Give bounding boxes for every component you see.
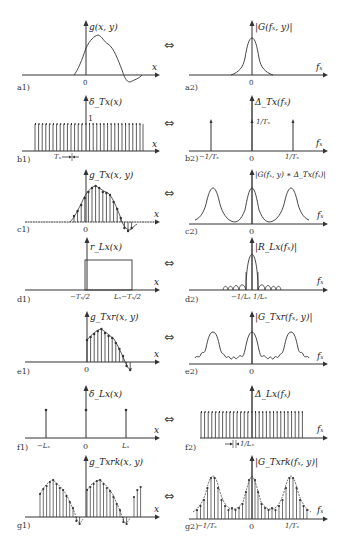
axis-label: fₓ [317,351,324,361]
axis-label: fₓ [317,210,324,220]
panel-tag: g1) [17,521,30,530]
axis-label: x [152,139,157,149]
function-label: δ_Lx(x) [89,389,122,399]
axis-label: x [154,425,159,435]
figure-caption-cropped [0,546,343,554]
plot-g1 [0,452,170,532]
panel-e1: g_Txr(x, y) x 0 e1) [0,304,170,376]
tick-label: 0 [249,522,254,531]
tick-label: 1/Lₓ [253,293,267,301]
panel-tag: c1) [17,225,30,234]
function-label: g_Txrk(x, y) [89,457,143,467]
tick-label: Tₓ [54,153,61,161]
tick-label: −1/Tₓ [197,522,217,530]
panel-a2: |G(fₓ, y)| fₓ 0 a2) [173,0,343,92]
tick-label: 1/Lₓ [240,440,254,448]
panel-c2: |G(fₓ, y) ∗ Δ_Tx(fₓ)| fₓ 0 c2) [173,162,343,234]
panel-tag: d1) [17,295,30,304]
panel-tag: e2) [185,367,198,376]
function-label: Δ_Lx(fₓ) [255,389,291,399]
tick-label: Lₓ−Tₓ/2 [114,293,141,301]
plot-f2 [173,376,343,452]
panel-g1: g_Txrk(x, y) x g1) [0,452,170,532]
axis-label: fₓ [317,276,324,286]
function-label: |R_Lx(fₓ)| [255,242,297,252]
tick-label: 0 [249,79,253,87]
plot-f1 [0,376,170,452]
plot-a2 [173,0,343,92]
axis-label: fₓ [317,424,324,434]
tick-label: 1/Tₓ [285,153,299,161]
panel-g2: |G_Txrk(fₓ, y)| fₓ g2) −1/Tₓ 0 1/Tₓ [173,452,343,532]
panel-c1: g_Tx(x, y) x 0 c1) [0,162,170,234]
axis-label: fₓ [316,138,323,148]
function-label: |G(fₓ, y)| [255,22,293,32]
axis-label: fₓ [317,505,324,515]
panel-d1: r_Lx(x) x −Tₓ/2 Lₓ−Tₓ/2 d1) [0,234,170,304]
tick-label: 0 [83,442,88,451]
function-label: |G_Txrk(fₓ, y)| [255,457,318,467]
function-label: g(x, y) [89,22,118,32]
tick-label: Lₓ [122,442,129,450]
tick-label: −Tₓ/2 [70,293,90,301]
tick-label: 0 [83,79,87,87]
function-label: |G(fₓ, y) ∗ Δ_Tx(fₓ)| [255,170,326,179]
panel-tag: a1) [17,83,30,92]
axis-label: x [154,349,159,359]
tick-label: −Lₓ [37,442,50,450]
tick-label: −1/Lₓ [231,293,251,301]
plot-b1 [0,92,170,162]
function-label: Δ_Tx(fₓ) [255,97,291,107]
panel-e2: |G_Txr(fₓ, y)| fₓ 0 e2) [173,304,343,376]
plot-c1 [0,162,170,234]
tick-label: 1 [88,114,93,123]
tick-label: 0 [249,367,254,376]
panel-tag: d2) [185,295,198,304]
tick-label: 1/Tₓ [285,522,299,530]
function-label: |G_Txr(fₓ, y)| [255,312,313,322]
axis-label: fₓ [316,62,323,72]
panel-tag: f2) [185,443,196,452]
panel-tag: e1) [17,367,30,376]
axis-label: x [154,209,159,219]
function-label: g_Tx(x, y) [89,170,133,180]
axis-label: x [154,277,159,287]
function-label: r_Lx(x) [90,242,122,252]
tick-label: 0 [83,225,88,234]
panel-tag: a2) [185,83,198,92]
tick-label: 1/Tₓ [256,118,270,126]
function-label: δ_Tx(x) [89,97,122,107]
tick-label: −1/Tₓ [199,153,219,161]
panel-b1: δ_Tx(x) 1 x Tₓ b1) [0,92,170,162]
panel-d2: |R_Lx(fₓ)| fₓ −1/Lₓ 1/Lₓ d2) [173,234,343,304]
panel-f2: Δ_Lx(fₓ) fₓ 1/Lₓ f2) [173,376,343,452]
panel-b2: Δ_Tx(fₓ) 1/Tₓ fₓ b2) −1/Tₓ 0 1/Tₓ [173,92,343,162]
function-label: g_Txr(x, y) [90,312,139,322]
panel-f1: δ_Lx(x) x −Lₓ 0 Lₓ f1) [0,376,170,452]
panel-tag: f1) [17,443,28,452]
tick-label: 0 [84,365,89,374]
panel-a1: g(x, y) x 0 a1) [0,0,170,92]
axis-label: x [152,62,157,72]
axis-label: x [154,504,159,514]
